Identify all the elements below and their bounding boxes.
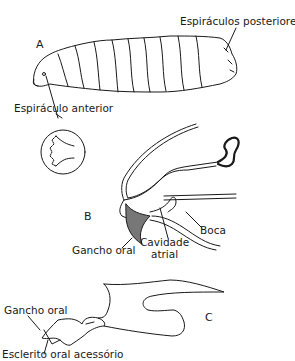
cephalopharyngeal-skeleton bbox=[28, 280, 224, 354]
panel-a-letter: A bbox=[36, 38, 44, 51]
label-atrial-cavity-line1: Cavidade bbox=[140, 236, 189, 248]
label-atrial-cavity: Cavidade atrial bbox=[140, 236, 189, 260]
label-oral-hook-c: Gancho oral bbox=[4, 304, 68, 316]
label-oral-hook-b: Gancho oral bbox=[72, 244, 136, 256]
label-anterior-spiracle: Espiráculo anterior bbox=[14, 102, 113, 114]
label-accessory-oral-sclerite: Esclerito oral acessório bbox=[2, 348, 124, 360]
label-posterior-spiracles: Espiráculos posteriores bbox=[180, 15, 295, 27]
label-atrial-cavity-line2: atrial bbox=[140, 248, 189, 260]
anterior-spiracle-inset bbox=[41, 130, 85, 174]
panel-b-letter: B bbox=[84, 210, 92, 223]
panel-c-letter: C bbox=[205, 311, 213, 324]
label-mouth: Boca bbox=[200, 224, 226, 236]
